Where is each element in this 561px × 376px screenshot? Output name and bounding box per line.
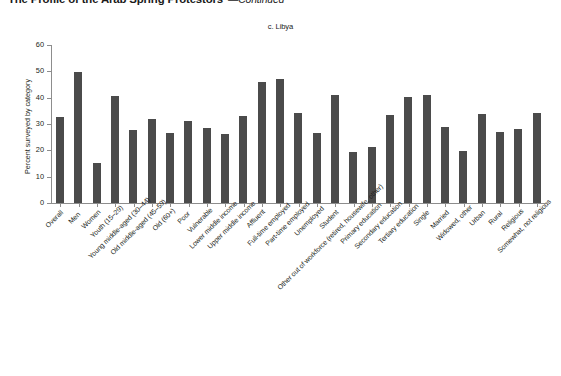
y-axis-title: Percent surveyed by category [23,57,32,197]
bar [533,113,541,203]
bar [184,121,192,203]
bar [56,117,64,203]
y-tick-0: 0 [47,203,52,204]
bar-group [509,45,527,203]
x-tick [97,203,98,207]
bar-group [271,45,289,203]
bar [514,129,522,203]
bar [478,114,486,203]
bar-group [69,45,87,203]
bar [111,96,119,203]
bar-group [344,45,362,203]
y-tick-label: 40 [36,93,44,102]
y-tick-label: 60 [36,40,44,49]
bar-group [308,45,326,203]
bar-group [528,45,546,203]
x-tick [445,203,446,207]
bar-group [198,45,216,203]
x-tick [427,203,428,207]
bar-series [51,45,546,203]
bar [221,134,229,203]
bar [404,97,412,203]
bar-group [124,45,142,203]
bar-group [161,45,179,203]
bar-group [399,45,417,203]
bar [203,128,211,203]
bar [129,130,137,203]
bar-group [253,45,271,203]
bar [148,119,156,203]
bar-group [418,45,436,203]
bar [459,151,467,203]
bar [93,163,101,203]
bar-group [179,45,197,203]
bar [423,95,431,203]
bar [258,82,266,203]
bar-group [289,45,307,203]
bar-group [436,45,454,203]
y-tick-label: 20 [36,145,44,154]
bar [441,127,449,203]
bar [313,133,321,203]
bar [349,152,357,203]
bar-group [381,45,399,203]
y-tick-label: 50 [36,66,44,75]
bar [276,79,284,203]
x-tick [189,203,190,207]
x-tick [60,203,61,207]
bar [239,116,247,203]
x-axis-label: Men [67,210,82,225]
bar [496,132,504,203]
bar [386,115,394,203]
bar-chart: Percent surveyed by category 01020304050… [0,0,561,376]
y-tick-label: 0 [40,198,44,207]
x-tick [262,203,263,207]
bar-group [234,45,252,203]
bar-group [473,45,491,203]
y-tick-label: 10 [36,172,44,181]
bar-group [143,45,161,203]
bar [74,72,82,203]
x-tick [79,203,80,207]
bar-group [326,45,344,203]
bar [294,113,302,203]
bar-group [454,45,472,203]
x-tick [335,203,336,207]
bar-group [363,45,381,203]
x-tick [482,203,483,207]
x-tick [500,203,501,207]
bar-group [88,45,106,203]
y-tick-label: 30 [36,119,44,128]
x-axis-label: Overall [44,209,65,230]
bar-group [106,45,124,203]
bar-group [51,45,69,203]
bar-group [491,45,509,203]
bar-group [216,45,234,203]
bar [331,95,339,203]
bar [166,133,174,203]
